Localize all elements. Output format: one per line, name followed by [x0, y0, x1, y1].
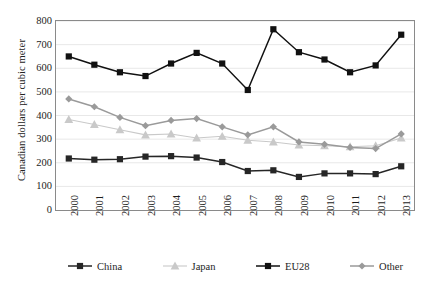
x-tick-label: 2009	[299, 195, 310, 235]
data-point-marker	[117, 69, 123, 75]
data-point-marker	[168, 60, 174, 66]
y-tick-label: 100	[26, 181, 52, 191]
data-point-marker	[142, 154, 148, 160]
y-tick-label: 400	[26, 111, 52, 121]
series-line	[69, 29, 401, 90]
legend-item-eu28[interactable]: EU28	[255, 261, 310, 272]
data-point-marker	[193, 115, 200, 122]
data-point-marker	[347, 170, 353, 176]
data-point-marker	[245, 168, 251, 174]
x-axis-tick-labels: 2000200120022003200420052006200720082009…	[55, 211, 415, 255]
data-point-marker	[321, 56, 327, 62]
x-tick-label: 2001	[94, 195, 105, 235]
data-point-marker	[244, 131, 251, 138]
x-tick-label: 2012	[376, 195, 387, 235]
y-tick-label: 500	[26, 87, 52, 97]
x-tick-label: 2007	[248, 195, 259, 235]
data-point-marker	[347, 69, 353, 75]
y-axis-tick-labels: 8007006005004003002001000	[24, 0, 52, 282]
legend-label: Japan	[192, 261, 216, 272]
x-tick-label: 2003	[146, 195, 157, 235]
legend-label: Other	[379, 261, 403, 272]
data-point-marker	[265, 263, 271, 269]
legend-item-china[interactable]: China	[67, 261, 122, 272]
legend-marker-icon	[349, 261, 375, 271]
y-tick-label: 0	[26, 205, 52, 215]
legend-item-japan[interactable]: Japan	[162, 261, 216, 272]
data-point-marker	[142, 73, 148, 79]
legend-marker-icon	[162, 261, 188, 271]
data-point-marker	[270, 123, 277, 130]
series-china	[66, 153, 405, 180]
series-canvas	[56, 21, 414, 210]
x-tick-label: 2005	[197, 195, 208, 235]
legend-label: EU28	[285, 261, 310, 272]
data-point-marker	[245, 87, 251, 93]
series-japan	[64, 115, 405, 150]
series-line	[69, 99, 401, 149]
x-tick-label: 2008	[273, 195, 284, 235]
data-point-marker	[91, 103, 98, 110]
plot-area	[55, 20, 415, 211]
data-point-marker	[194, 50, 200, 56]
legend-item-other[interactable]: Other	[349, 261, 403, 272]
chart-legend: ChinaJapanEU28Other	[55, 256, 415, 276]
data-point-marker	[142, 122, 149, 129]
data-point-marker	[77, 263, 83, 269]
y-tick-label: 300	[26, 134, 52, 144]
data-point-marker	[219, 123, 226, 130]
x-tick-label: 2000	[69, 195, 80, 235]
series-other	[65, 95, 405, 152]
data-point-marker	[321, 170, 327, 176]
data-point-marker	[64, 115, 73, 123]
y-tick-label: 600	[26, 63, 52, 73]
data-point-marker	[398, 163, 404, 169]
data-point-marker	[116, 114, 123, 121]
x-tick-label: 2006	[222, 195, 233, 235]
legend-marker-icon	[255, 261, 281, 271]
data-point-marker	[66, 155, 72, 161]
data-point-marker	[167, 117, 174, 124]
data-point-marker	[398, 130, 405, 137]
data-point-marker	[373, 62, 379, 68]
y-tick-label: 200	[26, 158, 52, 168]
x-tick-label: 2004	[171, 195, 182, 235]
data-point-marker	[218, 132, 227, 140]
data-point-marker	[270, 26, 276, 32]
data-point-marker	[66, 53, 72, 59]
data-point-marker	[168, 153, 174, 159]
y-tick-label: 700	[26, 40, 52, 50]
x-tick-label: 2013	[401, 195, 412, 235]
x-tick-label: 2011	[350, 195, 361, 235]
line-chart: Canadian dollars per cubic meter 8007006…	[0, 0, 431, 282]
x-tick-label: 2010	[325, 195, 336, 235]
data-point-marker	[65, 95, 72, 102]
data-point-marker	[91, 157, 97, 163]
data-point-marker	[270, 167, 276, 173]
x-tick-label: 2002	[120, 195, 131, 235]
series-eu28	[66, 26, 405, 93]
data-point-marker	[219, 60, 225, 66]
data-point-marker	[358, 262, 365, 269]
data-point-marker	[117, 156, 123, 162]
data-point-marker	[296, 49, 302, 55]
y-tick-label: 800	[26, 16, 52, 26]
data-point-marker	[194, 154, 200, 160]
data-point-marker	[296, 174, 302, 180]
data-point-marker	[91, 62, 97, 68]
data-point-marker	[167, 130, 176, 138]
data-point-marker	[398, 32, 404, 38]
legend-label: China	[97, 261, 122, 272]
data-point-marker	[219, 159, 225, 165]
legend-marker-icon	[67, 261, 93, 271]
data-point-marker	[373, 171, 379, 177]
